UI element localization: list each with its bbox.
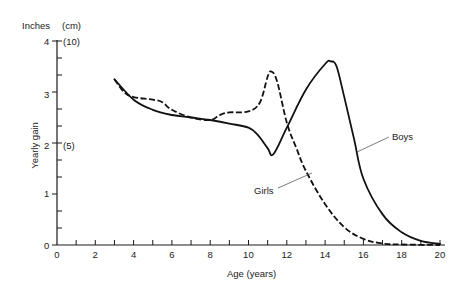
x-tick-label: 14: [320, 250, 331, 260]
x-tick-label: 8: [208, 250, 213, 260]
x-tick-label: 6: [169, 250, 174, 260]
x-tick-label: 4: [131, 250, 136, 260]
y-cm-label-10: (10): [63, 37, 80, 47]
girls-label: Girls: [254, 186, 274, 196]
x-tick-label: 18: [396, 250, 407, 260]
x-tick-label: 0: [54, 250, 59, 260]
boys-leader-line: [357, 137, 389, 152]
girls-leader-line: [278, 173, 312, 188]
y-axis-title: Yearly gain: [29, 116, 40, 176]
x-tick-label: 16: [358, 250, 369, 260]
boys-series-line: [114, 61, 440, 244]
boys-label: Boys: [392, 132, 413, 142]
axes: [57, 40, 445, 245]
x-tick-label: 12: [281, 250, 292, 260]
girls-series-line: [114, 71, 440, 245]
x-tick-label: 2: [93, 250, 98, 260]
x-tick-label: 10: [243, 250, 254, 260]
x-axis-title: Age (years): [227, 269, 276, 279]
y-tick-label-3: 3: [44, 90, 49, 100]
y-tick-label-4: 4: [44, 37, 49, 47]
x-tick-label: 20: [435, 250, 446, 260]
y-unit-cm: (cm): [62, 21, 81, 31]
y-unit-inches: Inches: [22, 21, 50, 31]
y-cm-label-5: (5): [63, 141, 75, 151]
y-tick-label-0: 0: [44, 241, 49, 251]
y-tick-label-2: 2: [44, 141, 49, 151]
y-tick-label-1: 1: [44, 189, 49, 199]
